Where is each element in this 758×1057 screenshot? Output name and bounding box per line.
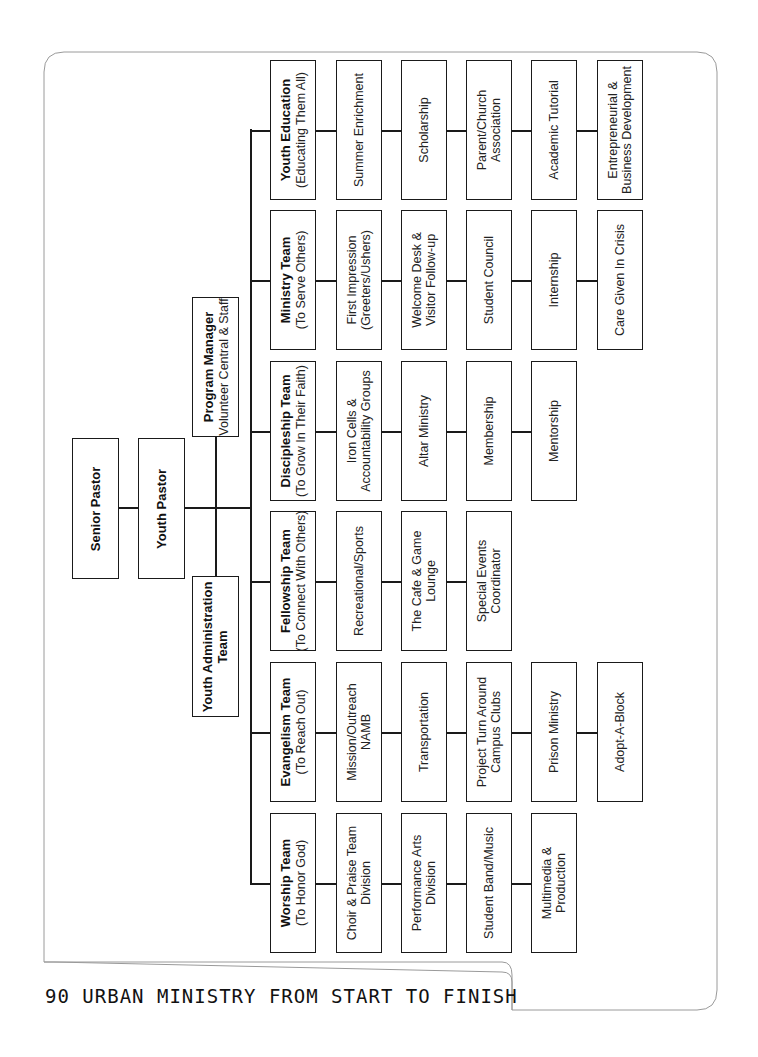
program-box: Altar Ministry [401, 361, 447, 501]
connector-spine-branch [250, 431, 270, 433]
connector-item [512, 431, 531, 433]
youth-admin-line-2: Team [216, 581, 231, 712]
team-title: Fellowship Team [279, 510, 294, 651]
program-box: First Impression(Greeters/Ushers) [336, 210, 382, 350]
youth-pastor-label: Youth Pastor [154, 469, 169, 549]
program-box: Prison Ministry [531, 662, 577, 802]
program-label: Business Development [620, 66, 634, 194]
program-label: Care Given In Crisis [613, 224, 627, 336]
senior-pastor-box: Senior Pastor [72, 438, 119, 579]
program-label: Academic Tutorial [547, 80, 561, 179]
program-label: Summer Enrichment [352, 73, 366, 187]
program-box: Student Council [466, 210, 512, 350]
program-label: The Cafe & Game [410, 531, 424, 632]
program-label: Adopt-A-Block [613, 692, 627, 772]
connector-item [382, 431, 401, 433]
connector-item [382, 732, 401, 734]
connector-item [447, 431, 466, 433]
program-label: Lounge [424, 531, 438, 632]
program-label: Recreational/Sports [352, 526, 366, 636]
team-subtitle: (To Connect With Others) [293, 510, 307, 651]
program-manager-box: Program Manager Volunteer Central & Staf… [192, 297, 239, 437]
connector-item [316, 732, 336, 734]
program-label: Performance Arts [410, 835, 424, 932]
program-box: Project Turn AroundCampus Clubs [466, 662, 512, 802]
page-footer: 90 URBAN MINISTRY FROM START TO FINISH [45, 985, 518, 1007]
connector-item [382, 130, 401, 132]
program-box: Performance ArtsDivision [401, 813, 447, 953]
program-box: Mentorship [531, 361, 577, 501]
program-label: Division [359, 826, 373, 940]
program-box: Welcome Desk &Visitor Follow-up [401, 210, 447, 350]
program-label: Parent/Church [475, 90, 489, 171]
program-label: Mission/Outreach [345, 683, 359, 780]
team-subtitle: (To Grow In Their Faith) [293, 365, 307, 497]
connector-item [512, 130, 531, 132]
program-box: Adopt-A-Block [597, 662, 643, 802]
program-box: Care Given In Crisis [597, 210, 643, 350]
program-label: Special Events [475, 540, 489, 623]
connector-item [512, 883, 531, 885]
connector-item [447, 883, 466, 885]
program-label: Scholarship [417, 97, 431, 162]
connector-item [316, 431, 336, 433]
connector-item [512, 280, 531, 282]
program-label: Internship [547, 253, 561, 308]
connector-program-admin [215, 436, 217, 576]
team-subtitle: (To Serve Others) [293, 231, 307, 330]
team-box: Youth Education(Educating Them All) [270, 60, 316, 200]
program-box: Entrepreneurial &Business Development [597, 60, 643, 200]
connector-youth-pastor-spine [184, 507, 251, 509]
program-label: Association [489, 90, 503, 171]
program-label: Student Council [482, 236, 496, 324]
connector-spine-branch [250, 581, 270, 583]
team-box: Worship Team(To Honor God) [270, 813, 316, 953]
team-title: Youth Education [279, 72, 294, 188]
team-box: Ministry Team(To Serve Others) [270, 210, 316, 350]
program-box: Transportation [401, 662, 447, 802]
program-manager-subtitle: Volunteer Central & Staff [216, 298, 230, 435]
program-box: Academic Tutorial [531, 60, 577, 200]
program-box: Scholarship [401, 60, 447, 200]
connector-spine-branch [250, 732, 270, 734]
senior-pastor-label: Senior Pastor [88, 466, 103, 551]
youth-admin-box: Youth Administration Team [192, 576, 239, 717]
program-box: Parent/ChurchAssociation [466, 60, 512, 200]
program-label: Membership [482, 397, 496, 466]
team-title: Ministry Team [279, 231, 294, 330]
connector-spine-branch [250, 280, 270, 282]
program-label: Campus Clubs [489, 677, 503, 787]
book-title: URBAN MINISTRY FROM START TO FINISH [82, 985, 517, 1007]
team-title: Discipleship Team [279, 365, 294, 497]
connector-spine [250, 129, 252, 883]
program-box: Choir & Praise TeamDivision [336, 813, 382, 953]
program-label: (Greeters/Ushers) [359, 230, 373, 330]
team-box: Discipleship Team(To Grow In Their Faith… [270, 361, 316, 501]
connector-item [447, 732, 466, 734]
connector-item [447, 130, 466, 132]
team-box: Evangelism Team(To Reach Out) [270, 662, 316, 802]
program-label: Altar Ministry [417, 395, 431, 467]
program-box: Mission/OutreachNAMB [336, 662, 382, 802]
program-box: Special EventsCoordinator [466, 511, 512, 651]
program-manager-title: Program Manager [201, 298, 216, 435]
youth-admin-line-1: Youth Administration [201, 581, 216, 712]
team-box: Fellowship Team(To Connect With Others) [270, 511, 316, 651]
team-subtitle: (Educating Them All) [293, 72, 307, 188]
connector-item [316, 280, 336, 282]
connector-senior-youth-pastor [118, 507, 138, 509]
program-label: First Impression [345, 230, 359, 330]
connector-item [382, 581, 401, 583]
program-box: Summer Enrichment [336, 60, 382, 200]
team-subtitle: (To Reach Out) [293, 678, 307, 787]
program-label: Project Turn Around [475, 677, 489, 787]
connector-item [447, 280, 466, 282]
program-label: Division [424, 835, 438, 932]
program-box: Internship [531, 210, 577, 350]
program-box: Multimedia &Production [531, 813, 577, 953]
program-box: Membership [466, 361, 512, 501]
connector-item [316, 130, 336, 132]
program-label: Mentorship [547, 400, 561, 462]
team-title: Worship Team [279, 839, 294, 927]
program-label: Entrepreneurial & [606, 66, 620, 194]
